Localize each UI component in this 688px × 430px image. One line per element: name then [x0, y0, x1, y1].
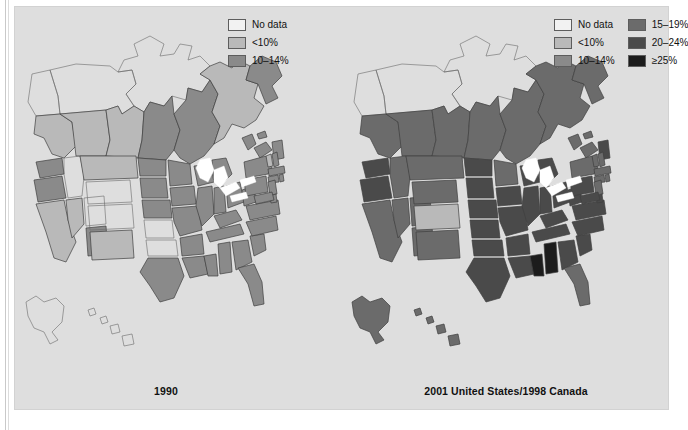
region-mn[interactable] — [494, 160, 518, 186]
legend-swatch-lt-10 — [228, 37, 246, 49]
region-pe[interactable] — [583, 131, 593, 139]
region-co[interactable] — [88, 204, 134, 230]
region-mn[interactable] — [168, 160, 192, 186]
region-sc[interactable] — [576, 234, 592, 256]
legend-1990: No data <10% 10–14% — [228, 18, 289, 67]
region-ks[interactable] — [144, 220, 174, 238]
region-sk[interactable] — [432, 106, 470, 158]
left-edge-rule — [5, 0, 6, 430]
figure-panel: No data <10% 10–14% No data — [14, 6, 669, 410]
legend-swatch-lt-10 — [554, 37, 572, 49]
map-1990-svg — [14, 10, 340, 380]
legend-item-15-19: 15–19% — [628, 18, 688, 31]
region-sk[interactable] — [106, 106, 144, 158]
region-sd[interactable] — [466, 178, 494, 198]
region-ne[interactable] — [468, 200, 498, 218]
region-sc[interactable] — [250, 234, 266, 256]
region-nd[interactable] — [464, 158, 492, 176]
region-yt[interactable] — [28, 70, 60, 116]
legend-item-lt-10: <10% — [554, 36, 615, 49]
map-1990[interactable] — [14, 10, 340, 380]
region-wa[interactable] — [362, 158, 390, 178]
region-on[interactable] — [174, 80, 220, 164]
region-al[interactable] — [218, 242, 232, 274]
region-tn[interactable] — [206, 224, 244, 242]
region-ri[interactable] — [605, 174, 610, 182]
region-or[interactable] — [34, 176, 66, 202]
region-fl[interactable] — [564, 264, 590, 306]
region-ut[interactable] — [84, 196, 106, 226]
region-al[interactable] — [544, 242, 558, 274]
legend-column: 15–19% 20–24% ≥25% — [628, 18, 688, 67]
region-yt[interactable] — [354, 70, 386, 116]
left-edge-rule-2 — [8, 0, 9, 430]
legend-label-15-19: 15–19% — [652, 19, 688, 31]
caption-2001: 2001 United States/1998 Canada — [340, 380, 666, 402]
region-nb[interactable] — [568, 134, 582, 150]
region-la[interactable] — [508, 256, 534, 278]
region-mb[interactable] — [464, 96, 506, 160]
legend-label-20-24: 20–24% — [652, 37, 688, 49]
legend-swatch-20-24 — [628, 37, 646, 49]
region-tn[interactable] — [532, 224, 570, 242]
legend-item-20-24: 20–24% — [628, 36, 688, 49]
region-mb[interactable] — [138, 96, 180, 160]
legend-swatch-no-data — [228, 19, 246, 31]
region-mt[interactable] — [406, 156, 464, 180]
legend-2001: No data <10% 10–14% 15–19% 20– — [554, 18, 688, 67]
caption-1990: 1990 — [14, 380, 340, 402]
legend-item-lt-10: <10% — [228, 36, 289, 49]
legend-item-10-14: 10–14% — [554, 54, 615, 67]
legend-label-no-data: No data — [578, 19, 613, 31]
legend-swatch-no-data — [554, 19, 572, 31]
region-hi[interactable] — [88, 308, 134, 346]
legend-column: No data <10% 10–14% — [554, 18, 615, 67]
region-wa[interactable] — [36, 158, 64, 178]
region-tx[interactable] — [140, 258, 184, 302]
region-ok[interactable] — [146, 240, 178, 256]
legend-item-gte-25: ≥25% — [628, 54, 688, 67]
region-on[interactable] — [500, 80, 546, 164]
region-tx[interactable] — [466, 258, 510, 302]
region-co[interactable] — [414, 204, 460, 230]
legend-label-10-14: 10–14% — [578, 55, 615, 67]
region-mt[interactable] — [80, 156, 138, 180]
region-ar[interactable] — [506, 234, 530, 256]
region-sd[interactable] — [140, 178, 168, 198]
legend-label-lt-10: <10% — [578, 37, 604, 49]
legend-swatch-15-19 — [628, 19, 646, 31]
region-or[interactable] — [360, 176, 392, 202]
region-ks[interactable] — [470, 220, 500, 238]
region-nm[interactable] — [90, 230, 134, 260]
region-ak[interactable] — [352, 296, 390, 344]
legend-label-10-14: 10–14% — [252, 55, 289, 67]
legend-label-no-data: No data — [252, 19, 287, 31]
legend-label-gte-25: ≥25% — [652, 55, 678, 67]
legend-item-no-data: No data — [228, 18, 289, 31]
legend-item-no-data: No data — [554, 18, 615, 31]
region-nd[interactable] — [138, 158, 166, 176]
region-ne[interactable] — [142, 200, 172, 218]
region-ok[interactable] — [472, 240, 504, 256]
region-nb[interactable] — [242, 134, 256, 150]
region-wy[interactable] — [86, 180, 132, 204]
region-hi[interactable] — [414, 308, 460, 346]
legend-swatch-10-14 — [554, 55, 572, 67]
legend-swatch-10-14 — [228, 55, 246, 67]
legend-label-lt-10: <10% — [252, 37, 278, 49]
region-nm[interactable] — [416, 230, 460, 260]
region-ak[interactable] — [26, 296, 64, 344]
legend-swatch-gte-25 — [628, 55, 646, 67]
region-ia[interactable] — [170, 186, 196, 206]
region-ri[interactable] — [279, 174, 284, 182]
region-la[interactable] — [182, 256, 208, 278]
legend-column: No data <10% 10–14% — [228, 18, 289, 67]
region-pe[interactable] — [257, 131, 267, 139]
region-ia[interactable] — [496, 186, 522, 206]
region-fl[interactable] — [238, 264, 264, 306]
region-ar[interactable] — [180, 234, 204, 256]
legend-item-10-14: 10–14% — [228, 54, 289, 67]
region-wy[interactable] — [412, 180, 458, 204]
